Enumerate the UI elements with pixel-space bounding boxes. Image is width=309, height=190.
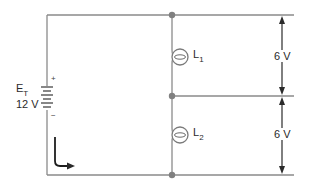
battery-label: ET xyxy=(16,82,28,98)
battery-negative-sign: − xyxy=(51,111,56,120)
voltage-drop-l2: 6 V xyxy=(272,97,296,174)
voltage-drop-l1-label: 6 V xyxy=(274,50,291,62)
battery-et: + − ET 12 V xyxy=(16,74,56,120)
current-flow-arrow-icon xyxy=(55,137,69,166)
battery-positive-sign: + xyxy=(51,74,56,83)
arrow-up-icon xyxy=(279,97,285,105)
voltage-drop-l1: 6 V xyxy=(272,16,296,95)
current-arrowhead-icon xyxy=(67,163,75,170)
arrow-down-icon xyxy=(279,166,285,174)
series-circuit-diagram: L1 L2 + − ET 12 V 6 V xyxy=(0,0,309,190)
lamp-l2: L2 xyxy=(172,126,204,143)
junction-dot-top xyxy=(169,12,175,18)
arrow-down-icon xyxy=(279,87,285,95)
junction-dot-bottom xyxy=(169,172,175,178)
voltage-drop-l2-label: 6 V xyxy=(274,128,291,140)
junction-dot-middle xyxy=(169,93,175,99)
arrow-up-icon xyxy=(279,16,285,24)
lamp-l1: L1 xyxy=(172,48,204,65)
battery-voltage: 12 V xyxy=(16,98,39,110)
lamp-l2-label: L2 xyxy=(193,126,204,142)
lamp-l1-label: L1 xyxy=(193,48,204,64)
current-arrow xyxy=(55,137,75,170)
